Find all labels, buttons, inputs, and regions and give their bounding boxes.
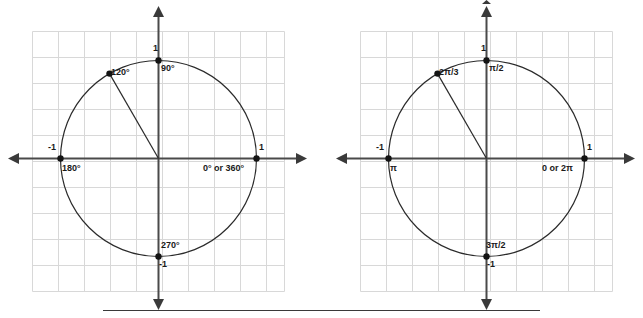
label-bottom-angle: 3π/2 bbox=[486, 241, 505, 250]
y-axis-down-arrow-icon bbox=[153, 299, 164, 310]
y-axis-down-arrow-icon bbox=[481, 299, 492, 310]
label-left-value: -1 bbox=[376, 143, 384, 152]
terminal-ray-2pi-3 bbox=[438, 74, 487, 159]
x-axis-left-arrow-icon bbox=[8, 153, 19, 164]
x-axis-left-arrow-icon bbox=[336, 153, 347, 164]
label-right-value: 1 bbox=[587, 143, 592, 152]
footer-horizontal-rule bbox=[103, 310, 540, 311]
y-axis-up-arrow-icon bbox=[153, 6, 164, 17]
label-left-angle: 180° bbox=[62, 164, 81, 173]
x-axis-right-arrow-icon bbox=[624, 153, 635, 164]
label-top-value: 1 bbox=[153, 44, 158, 53]
label-right-angle: 0 or 2π bbox=[542, 164, 573, 173]
figure-canvas: 1 90° 120° -1 180° 1 0° or 360° 270° -1 bbox=[0, 0, 643, 318]
label-top-value: 1 bbox=[481, 44, 486, 53]
label-left-angle: π bbox=[390, 164, 397, 173]
degree-unit-circle-panel: 1 90° 120° -1 180° 1 0° or 360° 270° -1 bbox=[0, 0, 322, 318]
label-left-value: -1 bbox=[48, 143, 56, 152]
point-left bbox=[385, 155, 391, 161]
label-right-angle: 0° or 360° bbox=[203, 164, 244, 173]
label-right-value: 1 bbox=[259, 143, 264, 152]
y-axis-top-cropped-mark-icon bbox=[482, 0, 491, 4]
point-right bbox=[253, 155, 259, 161]
label-ray-angle: 120° bbox=[111, 68, 130, 77]
label-bottom-value: -1 bbox=[487, 260, 495, 269]
degree-circle-svg bbox=[0, 0, 322, 318]
label-bottom-angle: 270° bbox=[161, 241, 180, 250]
label-bottom-value: -1 bbox=[159, 260, 167, 269]
label-top-angle: 90° bbox=[161, 64, 175, 73]
label-ray-angle: 2π/3 bbox=[439, 68, 458, 77]
point-left bbox=[57, 155, 63, 161]
point-right bbox=[581, 155, 587, 161]
x-axis-right-arrow-icon bbox=[296, 153, 307, 164]
label-top-angle: π/2 bbox=[489, 64, 503, 73]
terminal-ray-120deg bbox=[110, 74, 159, 159]
radian-unit-circle-panel: 1 π/2 2π/3 -1 π 1 0 or 2π 3π/2 -1 bbox=[321, 0, 643, 318]
y-axis-up-arrow-icon bbox=[481, 6, 492, 17]
